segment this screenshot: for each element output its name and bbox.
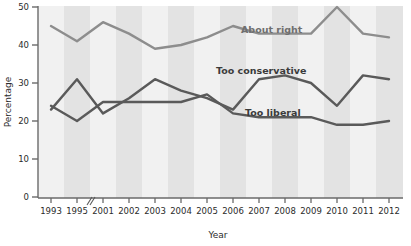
y-tick-10: 10 <box>18 154 29 164</box>
y-tick-labels: 50 40 30 20 10 0 <box>18 2 29 202</box>
x-tick-2003: 2003 <box>144 206 166 216</box>
chart-figure: 50 40 30 20 10 0 Percentage <box>0 0 411 246</box>
x-axis-title: Year <box>207 230 227 240</box>
x-tick-2007: 2007 <box>248 206 270 216</box>
x-tick-2006: 2006 <box>222 206 244 216</box>
y-axis <box>32 6 38 198</box>
x-tick-2005: 2005 <box>196 206 218 216</box>
x-tick-1993: 1993 <box>40 206 62 216</box>
y-axis-title: Percentage <box>3 76 13 127</box>
x-tick-2011: 2011 <box>352 206 374 216</box>
y-tick-0: 0 <box>24 192 29 202</box>
line-chart: 50 40 30 20 10 0 Percentage <box>0 0 411 246</box>
y-tick-20: 20 <box>18 116 29 126</box>
x-tick-2008: 2008 <box>274 206 296 216</box>
x-tick-2001: 2001 <box>92 206 114 216</box>
x-tick-2012: 2012 <box>378 206 400 216</box>
y-tick-30: 30 <box>18 78 29 88</box>
series-label-too-conservative: Too conservative <box>216 65 306 76</box>
series-label-about-right: About right <box>241 24 303 35</box>
y-tick-40: 40 <box>18 40 29 50</box>
x-tick-2009: 2009 <box>300 206 322 216</box>
x-tick-labels: 1993 1995 2001 2002 2003 2004 2005 2006 … <box>40 206 400 216</box>
series-label-too-liberal: Too liberal <box>245 107 301 118</box>
x-tick-2004: 2004 <box>170 206 192 216</box>
y-tick-50: 50 <box>18 2 29 12</box>
x-tick-2010: 2010 <box>326 206 348 216</box>
x-tick-1995: 1995 <box>66 206 88 216</box>
x-tick-2002: 2002 <box>118 206 140 216</box>
plot-background-bands <box>38 6 403 198</box>
